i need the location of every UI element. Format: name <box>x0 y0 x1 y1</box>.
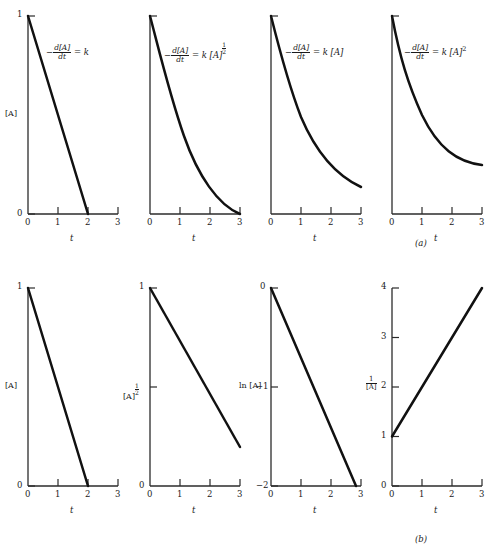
x-axis-label: t <box>70 505 73 515</box>
x-tick-label: 2 <box>85 490 90 499</box>
x-tick-label: 1 <box>419 218 424 227</box>
x-tick-label: 2 <box>207 218 212 227</box>
equation-denominator: dt <box>171 56 189 64</box>
subfigure-caption-a: (a) <box>415 238 427 248</box>
x-tick-label: 0 <box>25 490 30 499</box>
equation-rhs: k <box>84 47 89 57</box>
y-axis-label: ln [A] <box>239 382 261 390</box>
rate-equation-zero-order: −d[A]dt = k <box>46 44 89 61</box>
y-tick-label: 0 <box>260 282 265 291</box>
equation-equals: = <box>432 47 439 57</box>
x-tick-label: 0 <box>147 218 152 227</box>
x-tick-label: 1 <box>55 218 60 227</box>
kinetics-figure: 1 0 0 1 2 3 [A] t −d[A]dt = k <box>0 0 495 556</box>
subfigure-caption-b: (b) <box>415 534 427 544</box>
x-tick-label: 2 <box>328 218 333 227</box>
equation-denominator: dt <box>411 53 429 61</box>
x-tick-label: 1 <box>298 218 303 227</box>
y-axis-label: 1[A] <box>366 376 377 392</box>
y-tick-label: 4 <box>381 282 386 291</box>
y-tick-label: 1 <box>139 282 144 291</box>
y-tick-label: 1 <box>17 10 22 19</box>
x-tick-label: 2 <box>85 218 90 227</box>
x-tick-label: 3 <box>358 218 363 227</box>
equation-exponent: 2 <box>462 45 466 53</box>
equation-denominator: dt <box>292 53 310 61</box>
y-tick-label: 0 <box>17 481 22 490</box>
x-tick-label: 2 <box>449 218 454 227</box>
rate-equation-first-order: −d[A]dt = k [A] <box>285 44 343 61</box>
x-axis-label: t <box>434 505 437 515</box>
x-tick-label: 3 <box>237 218 242 227</box>
y-axis-label-base: [A] <box>123 392 135 401</box>
equation-equals: = <box>74 47 81 57</box>
y-tick-label: 0 <box>381 481 386 490</box>
panel-second-order-linear: 4 3 2 1 0 0 1 2 3 1[A] t <box>364 272 487 522</box>
x-axis-label: t <box>434 233 437 243</box>
y-tick-label: −2 <box>256 481 269 490</box>
rate-equation-half-order: −d[A]dt = k [A]12 <box>164 42 226 64</box>
x-tick-label: 1 <box>298 490 303 499</box>
x-tick-label: 1 <box>55 490 60 499</box>
y-axis-label-exponent-half: 12 <box>135 383 139 396</box>
x-tick-label: 3 <box>237 490 242 499</box>
panel-first-order-plot <box>243 0 366 250</box>
y-axis-label-denominator: [A] <box>366 384 377 391</box>
y-tick-label: 3 <box>381 332 386 341</box>
x-tick-label: 2 <box>328 490 333 499</box>
x-tick-label: 0 <box>389 490 394 499</box>
equation-equals: = <box>192 50 199 60</box>
x-tick-label: 0 <box>268 490 273 499</box>
panel-second-order-plot <box>364 0 495 250</box>
x-tick-label: 2 <box>449 490 454 499</box>
panel-second-order: 0 1 2 3 t −d[A]dt = k [A]2 <box>364 0 487 250</box>
y-tick-label: 2 <box>381 381 386 390</box>
equation-equals: = <box>313 47 320 57</box>
equation-rhs: k [A] <box>202 50 223 60</box>
panel-zero-order-linear: 1 0 0 1 2 3 [A] t <box>0 272 123 522</box>
equation-minus: − <box>285 47 292 57</box>
panel-first-order-linear: 0 −1 −2 0 1 2 3 ln [A] t <box>243 272 366 522</box>
x-tick-label: 3 <box>115 218 120 227</box>
x-axis-label: t <box>313 233 316 243</box>
panel-zero-order: 1 0 0 1 2 3 [A] t −d[A]dt = k <box>0 0 123 250</box>
figure-row-a: 1 0 0 1 2 3 [A] t −d[A]dt = k <box>0 0 495 250</box>
x-axis-label: t <box>313 505 316 515</box>
equation-denominator: dt <box>53 53 71 61</box>
equation-minus: − <box>164 50 171 60</box>
panel-half-order-linear: 1 0 0 1 2 3 [A]12 t <box>122 272 245 522</box>
x-tick-label: 0 <box>25 218 30 227</box>
x-axis-label: t <box>192 233 195 243</box>
x-tick-label: 1 <box>177 490 182 499</box>
x-tick-label: 0 <box>389 218 394 227</box>
equation-minus: − <box>46 47 53 57</box>
y-tick-label: 0 <box>139 481 144 490</box>
x-axis-label: t <box>70 233 73 243</box>
equation-exponent-half: 12 <box>222 42 226 55</box>
figure-row-b: 1 0 0 1 2 3 [A] t 1 0 0 1 <box>0 272 495 522</box>
equation-minus: − <box>404 47 411 57</box>
y-axis-label: [A] <box>5 382 17 390</box>
x-tick-label: 0 <box>147 490 152 499</box>
x-tick-label: 3 <box>358 490 363 499</box>
y-tick-label: 1 <box>17 282 22 291</box>
panel-half-order: 0 1 2 3 t −d[A]dt = k [A]12 <box>122 0 245 250</box>
panel-half-order-plot <box>122 0 245 250</box>
panel-first-order: 0 1 2 3 t −d[A]dt = k [A] <box>243 0 366 250</box>
x-tick-label: 2 <box>207 490 212 499</box>
y-tick-label: 1 <box>381 431 386 440</box>
rate-equation-second-order: −d[A]dt = k [A]2 <box>404 44 467 61</box>
y-tick-label: 0 <box>17 209 22 218</box>
x-tick-label: 3 <box>479 218 484 227</box>
y-axis-label: [A]12 <box>123 383 139 401</box>
x-tick-label: 3 <box>115 490 120 499</box>
x-tick-label: 1 <box>419 490 424 499</box>
equation-rhs: k [A] <box>323 47 344 57</box>
equation-rhs: k [A] <box>442 47 463 57</box>
y-axis-label: [A] <box>5 110 17 118</box>
x-tick-label: 0 <box>268 218 273 227</box>
x-tick-label: 1 <box>177 218 182 227</box>
x-tick-label: 3 <box>479 490 484 499</box>
x-axis-label: t <box>192 505 195 515</box>
